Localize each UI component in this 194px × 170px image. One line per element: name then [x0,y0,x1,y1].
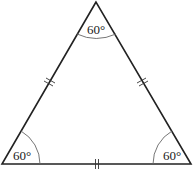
triangle-diagram: 60° 60° 60° [0,0,194,170]
angle-label-top: 60° [87,22,105,37]
angle-label-bottom-right: 60° [163,148,181,163]
angle-label-bottom-left: 60° [13,148,31,163]
